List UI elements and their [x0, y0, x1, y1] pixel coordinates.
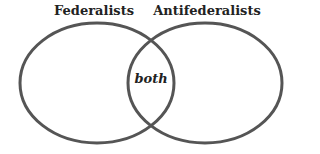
both-label: both — [134, 71, 167, 86]
federalists-label: Federalists — [54, 3, 134, 18]
antifederalists-label: Antifederalists — [153, 3, 261, 18]
